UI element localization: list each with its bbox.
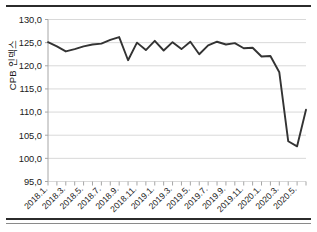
data-series-line <box>48 37 306 146</box>
bottom-rule-thin <box>6 223 311 224</box>
y-tick-label: 120,0 <box>19 61 42 71</box>
y-tick-label: 130,0 <box>19 15 42 25</box>
y-tick-label: 115,0 <box>19 84 42 94</box>
y-tick-label: 100,0 <box>19 154 42 164</box>
bottom-rule-thick <box>6 218 311 220</box>
y-tick-label: 110,0 <box>19 107 42 117</box>
chart-figure: CPB 인덱스 95,0100,0105,0110,0115,0120,0125… <box>0 0 317 232</box>
y-tick-label: 105,0 <box>19 131 42 141</box>
y-tick-label: 95,0 <box>24 177 42 187</box>
line-chart: 95,0100,0105,0110,0115,0120,0125,0130,02… <box>0 0 317 232</box>
y-tick-label: 125,0 <box>19 38 42 48</box>
